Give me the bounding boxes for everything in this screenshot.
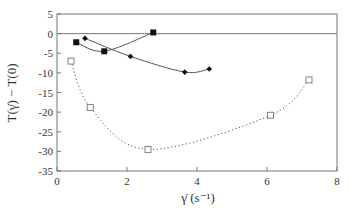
series-line (71, 61, 309, 149)
series-layer (68, 29, 312, 152)
x-tick-label: 6 (264, 175, 270, 187)
y-tick-label: -15 (38, 87, 53, 99)
y-tick-label: -25 (38, 126, 53, 138)
y-tick-label: -30 (38, 145, 53, 157)
y-tick-label: -5 (44, 47, 54, 59)
y-tick-label: -20 (38, 106, 53, 118)
x-tick-label: 0 (54, 175, 60, 187)
series-line (85, 38, 209, 72)
y-tick-label: -10 (38, 67, 53, 79)
series-line (76, 32, 153, 51)
diamond-marker (128, 54, 134, 60)
y-tick-label: -35 (38, 165, 53, 177)
x-axis-label: γ̇ (s⁻¹) (180, 190, 215, 205)
square-marker (150, 29, 156, 35)
x-tick-label: 8 (334, 175, 340, 187)
y-tick-label: 5 (48, 8, 54, 20)
y-tick-label: 0 (48, 28, 54, 40)
series-filled-diamonds (82, 36, 212, 75)
square-marker (101, 48, 107, 54)
diamond-marker (182, 69, 188, 75)
open-square-marker (145, 146, 151, 152)
open-square-marker (87, 104, 93, 110)
x-tick-label: 2 (124, 175, 130, 187)
y-axis-label: T(γ̇) − T(0) (4, 63, 19, 122)
axes: 50-5-10-15-20-25-30-3502468 (38, 8, 340, 187)
plot-frame (57, 14, 337, 171)
diamond-marker (82, 36, 88, 42)
open-square-marker (306, 77, 312, 83)
diamond-marker (206, 66, 212, 72)
open-square-marker (268, 112, 274, 118)
open-square-marker (68, 58, 74, 64)
chart: 50-5-10-15-20-25-30-3502468 T(γ̇) − T(0)… (0, 0, 350, 210)
x-tick-label: 4 (194, 175, 200, 187)
square-marker (73, 39, 79, 45)
